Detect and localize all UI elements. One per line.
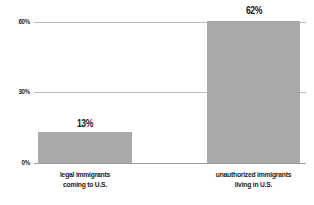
x-axis-label-unauthorized-immigrants-line1: unauthorized immigrants	[200, 170, 307, 180]
x-axis-label-legal-immigrants-line1: legal immigrants	[40, 170, 130, 180]
x-axis-label-legal-immigrants: legal immigrants coming to U.S.	[40, 170, 130, 190]
plot-area: 60% 30% 0% 13% 62% legal immigrants comi…	[0, 0, 314, 205]
bar-value-label-legal-immigrants: 13%	[64, 118, 107, 129]
x-axis-label-unauthorized-immigrants-line2: living in U.S.	[200, 180, 307, 190]
axis-baseline-0	[34, 163, 306, 164]
bar-chart: 60% 30% 0% 13% 62% legal immigrants comi…	[0, 0, 314, 205]
bar-unauthorized-immigrants[interactable]	[207, 21, 300, 163]
y-tick-label-0: 0%	[5, 159, 30, 167]
x-axis-label-unauthorized-immigrants: unauthorized immigrants living in U.S.	[200, 170, 307, 190]
y-tick-label-60: 60%	[5, 18, 30, 26]
bar-value-label-unauthorized-immigrants: 62%	[233, 5, 276, 16]
y-tick-label-30: 30%	[5, 88, 30, 96]
x-axis-label-legal-immigrants-line2: coming to U.S.	[40, 180, 130, 190]
bar-legal-immigrants[interactable]	[38, 132, 132, 163]
